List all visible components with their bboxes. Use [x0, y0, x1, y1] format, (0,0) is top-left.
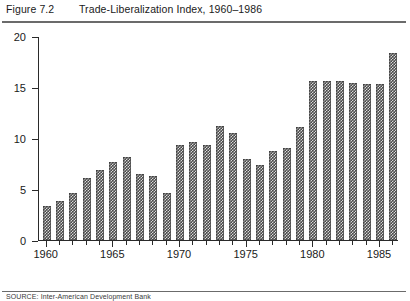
x-axis-tick: [59, 241, 60, 245]
x-axis-label: 1975: [233, 248, 257, 260]
x-axis-label: 1965: [100, 248, 124, 260]
figure-header: Figure 7.2 Trade-Liberalization Index, 1…: [0, 0, 410, 22]
bar: [69, 193, 77, 240]
y-axis-label: 10: [14, 133, 26, 145]
bar: [363, 84, 371, 240]
x-axis-tick: [339, 241, 340, 245]
y-axis-label: 20: [14, 31, 26, 43]
bar: [56, 201, 64, 240]
bar: [243, 159, 251, 240]
header-divider: [2, 21, 406, 23]
bar: [123, 157, 131, 240]
footer-divider: [2, 291, 406, 292]
bar: [389, 53, 397, 240]
bar: [176, 145, 184, 240]
x-axis-tick: [179, 241, 180, 247]
x-axis-tick: [206, 241, 207, 245]
x-axis-label: 1985: [367, 248, 391, 260]
page-title: Trade-Liberalization Index, 1960–1986: [79, 3, 262, 15]
x-axis-tick: [392, 241, 393, 245]
x-axis-tick: [46, 241, 47, 247]
bar: [349, 83, 357, 240]
bar: [136, 174, 144, 240]
bar: [203, 145, 211, 240]
bar: [163, 193, 171, 240]
bar: [96, 170, 104, 240]
x-axis-tick: [246, 241, 247, 247]
x-axis-tick: [232, 241, 233, 245]
x-axis-label: 1960: [33, 248, 57, 260]
bar: [109, 162, 117, 240]
x-axis-tick: [366, 241, 367, 245]
bar: [256, 165, 264, 240]
x-axis-tick: [112, 241, 113, 247]
x-axis-tick: [299, 241, 300, 245]
bar: [336, 81, 344, 240]
y-axis-tick: [32, 241, 38, 242]
bar-chart: 05101520 196019651970197519801985: [38, 37, 398, 241]
x-axis-tick: [379, 241, 380, 247]
x-axis-tick: [72, 241, 73, 245]
x-axis-line: [38, 240, 398, 241]
x-axis-tick: [312, 241, 313, 247]
y-axis-label: 5: [20, 184, 26, 196]
y-axis-tick: [32, 139, 38, 140]
figure-number: Figure 7.2: [6, 3, 54, 15]
x-axis-tick: [126, 241, 127, 245]
bar: [216, 126, 224, 240]
x-axis-tick: [219, 241, 220, 245]
y-axis-tick: [32, 88, 38, 89]
bar: [309, 81, 317, 240]
bar: [189, 142, 197, 240]
x-axis-label: 1970: [167, 248, 191, 260]
x-axis-tick: [352, 241, 353, 245]
y-axis-tick: [32, 37, 38, 38]
bar: [269, 151, 277, 240]
x-axis-tick: [152, 241, 153, 245]
x-axis-tick: [166, 241, 167, 245]
bar: [229, 133, 237, 240]
bar: [149, 176, 157, 240]
y-axis-label: 0: [20, 235, 26, 247]
x-axis-tick: [192, 241, 193, 245]
x-axis-label: 1980: [300, 248, 324, 260]
x-axis-tick: [99, 241, 100, 245]
y-axis-tick: [32, 190, 38, 191]
bar: [376, 84, 384, 240]
bar: [83, 178, 91, 240]
bar: [296, 127, 304, 240]
x-axis-tick: [326, 241, 327, 245]
x-axis-tick: [272, 241, 273, 245]
x-axis-tick: [259, 241, 260, 245]
x-axis-tick: [139, 241, 140, 245]
source-note: SOURCE: Inter-American Development Bank: [6, 293, 151, 301]
x-axis-tick: [286, 241, 287, 245]
y-axis-label: 15: [14, 82, 26, 94]
bar-series: [39, 37, 398, 240]
bar: [283, 148, 291, 240]
bar: [323, 81, 331, 240]
bar: [43, 206, 51, 240]
x-axis-tick: [86, 241, 87, 245]
